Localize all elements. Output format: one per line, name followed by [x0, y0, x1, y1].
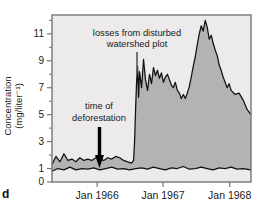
y-axis-title: Concentration (mg/liter⁻¹) — [2, 46, 24, 166]
x-tick-label: Jan 1966 — [76, 189, 119, 201]
y-tick-label: 3 — [38, 136, 44, 147]
x-axis-ticks — [97, 182, 230, 187]
x-tick-label: Jan 1968 — [208, 189, 251, 201]
chart-canvas: 01357911 Jan 1966Jan 1967Jan 1968 losses… — [0, 0, 265, 213]
y-axis-title-line2: (mg/liter⁻¹) — [13, 46, 24, 166]
annotation-disturbed-line1: losses from disturbed — [93, 28, 181, 38]
y-tick-label: 7 — [38, 82, 44, 93]
x-axis-tick-labels: Jan 1966Jan 1967Jan 1968 — [76, 189, 252, 201]
y-axis-ticks — [47, 34, 52, 182]
y-tick-label: 0 — [38, 176, 44, 187]
figure-panel-d: d Concentration (mg/liter⁻¹) 01357911 Ja… — [0, 0, 265, 213]
y-axis-tick-labels: 01357911 — [34, 28, 45, 187]
annotation-deforestation-line2: deforestation — [72, 113, 126, 123]
y-tick-label: 11 — [34, 28, 45, 39]
annotation-disturbed-line2: watershed plot — [106, 39, 168, 49]
panel-label: d — [2, 188, 9, 200]
y-axis-title-line1: Concentration — [2, 76, 13, 135]
x-tick-label: Jan 1967 — [141, 189, 184, 201]
y-tick-label: 5 — [38, 109, 44, 120]
y-tick-label: 1 — [38, 163, 44, 174]
annotation-deforestation-line1: time of — [85, 101, 113, 111]
y-tick-label: 9 — [38, 55, 44, 66]
